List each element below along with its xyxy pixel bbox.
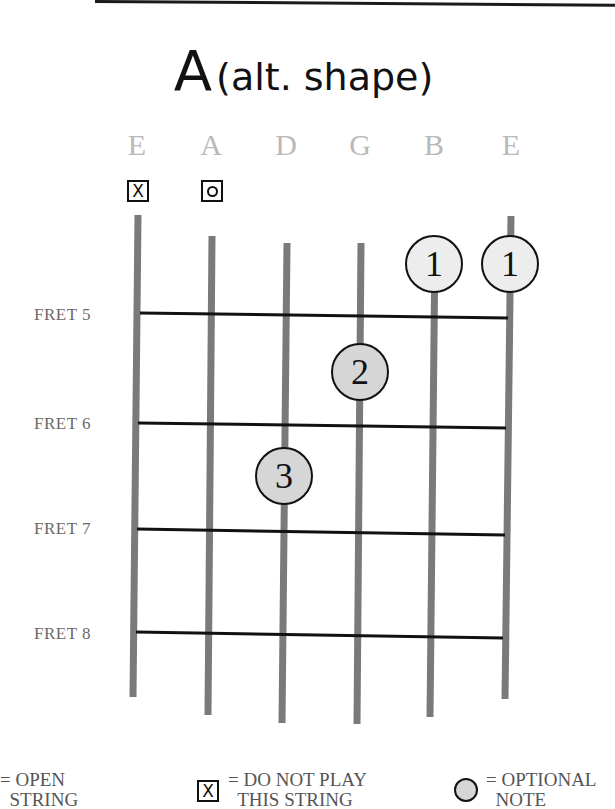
fret-6-line: [138, 423, 506, 428]
frets: [136, 313, 508, 638]
fret-8-line: [136, 632, 503, 638]
fret-label-5: FRET 5: [34, 305, 91, 325]
legend-optional-note-icon: [454, 778, 478, 802]
fret-7-line: [137, 529, 505, 535]
string-a: [208, 236, 212, 715]
finger-dot-b-string: 1: [405, 235, 463, 293]
string-low-e: [133, 215, 138, 697]
legend-optional-note-text: = OPTIONAL NOTE: [486, 770, 596, 809]
fret-label-7: FRET 7: [34, 519, 91, 539]
legend-do-not-play-text: = DO NOT PLAY THIS STRING: [228, 770, 367, 809]
finger-dot-g-string: 2: [331, 343, 389, 401]
fret-5-line: [140, 313, 508, 318]
legend-open-string-text: = OPEN STRING: [0, 770, 78, 809]
finger-dot-d-string: 3: [255, 447, 313, 505]
string-b: [430, 243, 435, 717]
strings: [133, 215, 511, 724]
fret-label-8: FRET 8: [34, 624, 91, 644]
finger-dot-high-e-string: 1: [481, 235, 539, 293]
legend-mute-icon: X: [197, 780, 219, 802]
fret-label-6: FRET 6: [34, 414, 91, 434]
